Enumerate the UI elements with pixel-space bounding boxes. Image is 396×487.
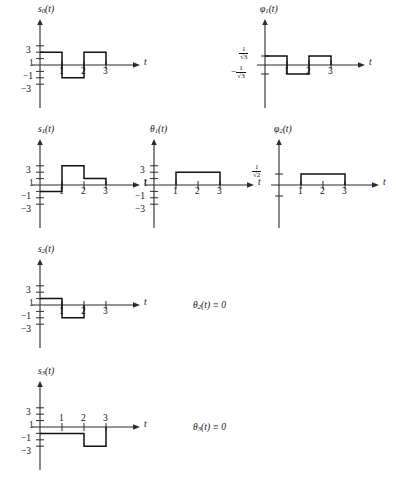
plot-theta1-title: θ1(t) <box>150 125 167 135</box>
y-tick-label-1: 1 <box>29 421 34 431</box>
x-axis-label-t: t <box>144 58 147 68</box>
y-tick-label-neg1: −1 <box>135 192 145 202</box>
x-tick-label-2: 2 <box>306 67 311 77</box>
plot-s3-svg <box>30 380 160 472</box>
plot-s1: s1(t) 3 1 −1 −3 1 2 3 t <box>30 138 160 230</box>
x-axis-arrow <box>133 424 140 430</box>
theta3-identity: θ3(t) ≡ 0 <box>193 422 226 432</box>
x-tick-label-3: 3 <box>103 307 108 317</box>
waveform-s3 <box>40 427 106 446</box>
y-tick-label-1: 1 <box>143 179 148 189</box>
y-axis-arrow <box>151 139 157 145</box>
y-axis-arrow <box>37 139 43 145</box>
x-tick-label-2: 2 <box>320 187 325 197</box>
figure-sheet: s0(t) 3 1 −1 −3 1 2 3 t φ1(t) 1√ <box>0 0 396 487</box>
y-tick-label-3: 3 <box>26 166 31 176</box>
y-axis-arrow <box>37 381 43 387</box>
x-tick-label-3: 3 <box>103 414 108 424</box>
x-tick-label-1: 1 <box>298 187 303 197</box>
y-axis-arrow <box>276 139 282 145</box>
x-tick-label-1: 1 <box>59 187 64 197</box>
plot-s0-svg <box>30 18 160 110</box>
waveform-s1 <box>40 166 106 192</box>
plot-s0-title: s0(t) <box>38 5 54 15</box>
x-axis-arrow <box>133 302 140 308</box>
y-axis-arrow <box>37 259 43 265</box>
x-tick-label-3: 3 <box>217 187 222 197</box>
plot-s2: s2(t) 3 1 −1 −3 1 2 3 t <box>30 258 160 350</box>
x-tick-label-2: 2 <box>81 414 86 424</box>
x-axis-arrow <box>133 182 140 188</box>
y-tick-label-neg3: −3 <box>21 85 31 95</box>
plot-phi2-svg <box>269 138 396 230</box>
y-tick-label-neg3: −3 <box>21 205 31 215</box>
x-tick-label-1: 1 <box>173 187 178 197</box>
plot-phi2: φ2(t) 1√2 1 2 3 t <box>269 138 396 230</box>
y-axis-arrow <box>262 19 268 25</box>
plot-s2-title: s2(t) <box>38 245 54 255</box>
x-axis-arrow <box>372 182 379 188</box>
plot-phi1-svg <box>255 18 385 110</box>
y-tick-label-neg1: −1 <box>21 434 31 444</box>
x-axis-label-t: t <box>369 58 372 68</box>
x-tick-label-2: 2 <box>195 187 200 197</box>
x-tick-label-3: 3 <box>342 187 347 197</box>
y-axis-arrow <box>37 19 43 25</box>
y-tick-label-1: 1 <box>29 59 34 69</box>
y-tick-label-1: 1 <box>29 299 34 309</box>
x-axis-label-t: t <box>144 420 147 430</box>
plot-phi1-title: φ1(t) <box>260 5 278 15</box>
x-tick-label-1: 1 <box>59 414 64 424</box>
plot-s0: s0(t) 3 1 −1 −3 1 2 3 t <box>30 18 160 110</box>
x-tick-label-3: 3 <box>103 67 108 77</box>
y-tick-label-3: 3 <box>140 166 145 176</box>
y-tick-label-neg3: −3 <box>21 447 31 457</box>
x-tick-label-2: 2 <box>81 187 86 197</box>
y-tick-label-3: 3 <box>26 286 31 296</box>
x-tick-label-3: 3 <box>328 67 333 77</box>
x-tick-label-1: 1 <box>284 67 289 77</box>
x-axis-arrow <box>247 182 254 188</box>
y-tick-label-1: 1 <box>29 179 34 189</box>
plot-theta1: θ1(t) 3 1 −1 −3 1 2 3 t <box>144 138 274 230</box>
x-axis-label-t: t <box>258 178 261 188</box>
plot-s1-svg <box>30 138 160 230</box>
x-axis-label-t: t <box>144 298 147 308</box>
plot-theta1-svg <box>144 138 274 230</box>
x-tick-label-2: 2 <box>81 307 86 317</box>
x-axis-arrow <box>358 62 365 68</box>
plot-phi1: φ1(t) 1√3 −1√3 1 2 3 t <box>255 18 385 110</box>
y-tick-label-pos-frac: 1√2 <box>252 164 261 179</box>
y-tick-label-neg3: −3 <box>135 205 145 215</box>
plot-phi2-title: φ2(t) <box>274 125 292 135</box>
y-tick-label-neg1: −1 <box>23 72 33 82</box>
y-tick-label-3: 3 <box>26 46 31 56</box>
y-tick-label-3: 3 <box>26 408 31 418</box>
x-axis-label-t: t <box>383 178 386 188</box>
x-tick-label-3: 3 <box>103 187 108 197</box>
x-axis-arrow <box>133 62 140 68</box>
x-tick-label-1: 1 <box>59 67 64 77</box>
plot-s3-title: s3(t) <box>38 367 54 377</box>
y-tick-label-neg3: −3 <box>21 325 31 335</box>
plot-s3: s3(t) 3 1 −1 −3 1 2 3 t <box>30 380 160 472</box>
y-tick-label-neg-frac: −1√3 <box>231 65 246 80</box>
y-tick-label-neg1: −1 <box>21 192 31 202</box>
x-tick-label-1: 1 <box>59 307 64 317</box>
y-tick-label-pos-frac: 1√3 <box>239 46 248 61</box>
theta2-identity: θ2(t) ≡ 0 <box>193 300 226 310</box>
y-tick-label-neg1: −1 <box>21 312 31 322</box>
x-tick-label-2: 2 <box>81 67 86 77</box>
plot-s2-svg <box>30 258 160 350</box>
plot-s1-title: s1(t) <box>38 125 54 135</box>
